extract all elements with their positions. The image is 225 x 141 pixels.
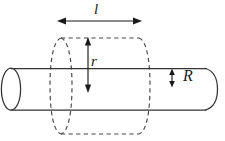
inner-radius-arrow-head-bottom [169, 81, 175, 88]
dashed-cylinder [50, 38, 150, 134]
dashed-left-ellipse-front [61, 38, 72, 134]
cylinder-right-cap [206, 69, 218, 111]
figure-container: l r R [0, 0, 225, 141]
inner-radius-arrow [169, 69, 175, 88]
inner-radius-arrow-head-top [169, 69, 175, 76]
outer-radius-label: r [91, 54, 97, 69]
length-arrow-head-left [57, 18, 66, 25]
dashed-right-ellipse-front [139, 38, 150, 134]
length-arrow [57, 18, 142, 25]
length-arrow-head-right [133, 18, 142, 25]
dashed-left-ellipse-back [50, 38, 61, 134]
cylinder-left-cap [1, 68, 20, 110]
length-label: l [94, 2, 98, 17]
outer-radius-arrow-head-bottom [85, 85, 91, 94]
inner-radius-label: R [183, 68, 193, 84]
